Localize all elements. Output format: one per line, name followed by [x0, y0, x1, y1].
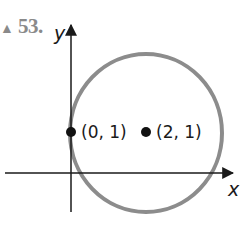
y-axis-label: y — [53, 22, 66, 44]
tangent-point — [66, 127, 76, 137]
center-point — [141, 127, 151, 137]
x-axis-label: x — [227, 178, 240, 200]
circle-graph: x y (0, 1) (2, 1) — [0, 0, 245, 226]
tangent-point-label: (0, 1) — [81, 122, 127, 142]
center-point-label: (2, 1) — [156, 122, 202, 142]
